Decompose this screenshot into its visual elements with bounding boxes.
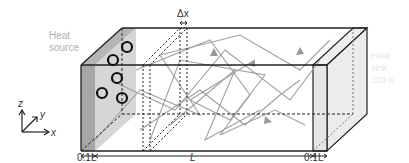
heat-sink-label-line3: 300 K (371, 75, 395, 85)
axis-y-label: y (39, 109, 46, 120)
heat-source-label-line1: Heat (49, 30, 70, 41)
heat-sink-slab (313, 28, 367, 151)
phonon-transport-diagram: Heat source Heat sink 300 K Δx 0.1L L 0.… (0, 0, 409, 163)
axis-z-label: z (17, 98, 23, 109)
delta-x-label: Δx (177, 8, 189, 19)
dimension-lines (81, 138, 327, 160)
heat-source-label-line2: source (49, 42, 79, 53)
delta-x-slab (143, 28, 187, 151)
axis-x-label: x (50, 127, 57, 138)
heat-sink-label-line1: Heat (371, 51, 391, 61)
heat-sink-label-line2: sink (371, 63, 388, 73)
delta-x-arrow (180, 21, 187, 25)
dim-center-label: L (190, 152, 196, 163)
dim-left-label: 0.1L (77, 152, 97, 163)
dim-right-label: 0.1L (304, 152, 324, 163)
heat-source-slab (81, 28, 136, 151)
